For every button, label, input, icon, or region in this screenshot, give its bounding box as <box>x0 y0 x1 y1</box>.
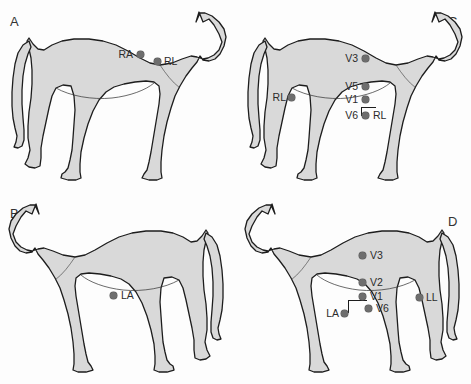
marker-label-v6: V6 <box>345 109 358 121</box>
marker-ra <box>137 51 144 58</box>
marker-label-v6: V6 <box>376 302 389 314</box>
marker-label-v5: V5 <box>345 80 358 92</box>
marker-label-v3: V3 <box>370 249 383 261</box>
marker-label-rl-flank: RL <box>273 91 286 103</box>
panel-b: B LA <box>0 192 235 384</box>
horse-silhouette-left-d <box>236 192 471 384</box>
horse-silhouette-left-b <box>0 192 235 384</box>
marker-label-v1: V1 <box>345 93 358 105</box>
marker-label-v1: V1 <box>370 290 383 302</box>
marker-v3 <box>362 55 369 62</box>
marker-v6 <box>362 112 369 119</box>
marker-v5 <box>362 83 369 90</box>
marker-label-v2: V2 <box>370 276 383 288</box>
marker-v3 <box>359 252 366 259</box>
marker-la <box>341 310 348 317</box>
panel-d: D V3 V2 V1 V6 LA LL <box>236 192 471 384</box>
figure-canvas: A RA RL B LA <box>0 0 471 384</box>
marker-label-la: LA <box>121 289 134 301</box>
marker-v1 <box>362 96 369 103</box>
marker-rl-flank <box>288 94 295 101</box>
v6-la-connector-line <box>348 300 367 313</box>
marker-v1 <box>359 293 366 300</box>
marker-la <box>110 292 117 299</box>
marker-label-la: LA <box>326 307 339 319</box>
horse-silhouette-right-a <box>0 0 235 192</box>
marker-label-rl: RL <box>164 55 177 67</box>
marker-label-v3: V3 <box>345 52 358 64</box>
marker-label-rl-right: RL <box>373 109 386 121</box>
marker-v6 <box>365 305 372 312</box>
panel-c: C V3 V5 V1 V6 RL RL <box>236 0 471 192</box>
marker-ll <box>416 294 423 301</box>
marker-v2 <box>359 279 366 286</box>
panel-a: A RA RL <box>0 0 235 192</box>
marker-label-ra: RA <box>118 48 133 60</box>
marker-rl <box>154 58 161 65</box>
marker-label-ll: LL <box>426 291 438 303</box>
